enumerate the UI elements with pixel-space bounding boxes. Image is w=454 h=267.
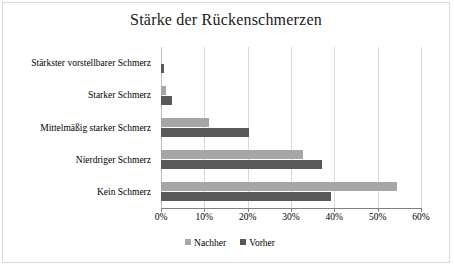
bar-vorher-1	[161, 96, 172, 105]
legend-swatch-nachher-icon	[185, 239, 191, 245]
plot-area	[161, 47, 421, 208]
tick-mark-10%	[204, 208, 205, 212]
bar-nachher-3	[161, 150, 303, 159]
y-axis-label-2: Mittelmäßig starker Schmerz	[40, 122, 151, 134]
y-axis-label-3: Nierdriger Schmerz	[76, 154, 151, 166]
bar-vorher-0	[161, 64, 164, 73]
bar-vorher-4	[161, 192, 331, 201]
tick-mark-20%	[248, 208, 249, 212]
tick-mark-60%	[421, 208, 422, 212]
chart-title: Stärke der Rückenschmerzen	[3, 11, 449, 29]
x-axis-label-2: 20%	[239, 211, 256, 223]
chart-frame: Stärke der Rückenschmerzen Stärkster vor…	[2, 2, 450, 263]
legend-swatch-vorher-icon	[240, 239, 246, 245]
bar-vorher-2	[161, 128, 249, 137]
legend-label-nachher: Nachher	[194, 238, 226, 248]
chart-legend: NachherVorher	[3, 237, 454, 249]
x-axis-label-1: 10%	[196, 211, 213, 223]
tick-mark-50%	[378, 208, 379, 212]
gridline-60%	[421, 47, 422, 208]
tick-mark-40%	[334, 208, 335, 212]
y-axis-label-0: Stärkster vorstellbarer Schmerz	[31, 57, 151, 69]
bar-nachher-2	[161, 118, 209, 127]
x-axis-label-5: 50%	[369, 211, 386, 223]
x-axis-label-0: 0%	[155, 211, 168, 223]
legend-item-vorher[interactable]: Vorher	[240, 237, 275, 249]
x-axis-tick-labels: 0%10%20%30%40%50%60%	[3, 211, 454, 227]
x-axis-label-6: 60%	[412, 211, 429, 223]
y-axis-label-1: Starker Schmerz	[88, 89, 151, 101]
legend-item-nachher[interactable]: Nachher	[185, 237, 226, 249]
y-axis-label-4: Kein Schmerz	[97, 186, 151, 198]
legend-label-vorher: Vorher	[249, 238, 275, 248]
bar-nachher-1	[161, 86, 166, 95]
x-axis-label-4: 40%	[326, 211, 343, 223]
y-axis-category-labels: Stärkster vorstellbarer SchmerzStarker S…	[3, 47, 155, 208]
x-axis-label-3: 30%	[282, 211, 299, 223]
tick-mark-30%	[291, 208, 292, 212]
bar-nachher-4	[161, 182, 397, 191]
tick-mark-0%	[161, 208, 162, 212]
bar-vorher-3	[161, 160, 322, 169]
